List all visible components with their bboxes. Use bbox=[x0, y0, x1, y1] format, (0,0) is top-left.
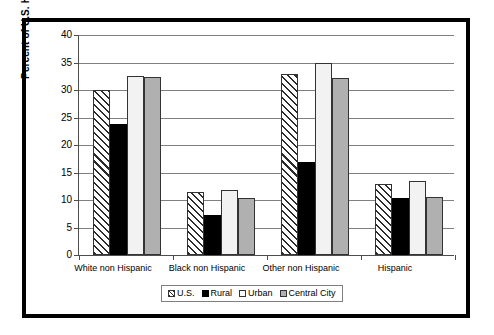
x-axis-label-2: Other non Hispanic bbox=[254, 263, 348, 273]
bar-rural[interactable] bbox=[110, 124, 127, 255]
legend-label: Rural bbox=[211, 288, 233, 298]
y-axis-tick-label: 15 bbox=[61, 172, 72, 173]
bar-group-bars bbox=[361, 35, 469, 255]
bar-group bbox=[79, 35, 173, 255]
x-axis-tick bbox=[173, 255, 174, 260]
legend-swatch-icon bbox=[280, 290, 287, 297]
bar-group bbox=[267, 35, 361, 255]
legend-swatch-icon bbox=[168, 290, 175, 297]
x-axis-label-3: Hispanic bbox=[348, 263, 442, 273]
y-axis-title: Percent of U.S. Households bbox=[20, 0, 34, 82]
bar-group-bars bbox=[79, 35, 187, 255]
y-axis-tick-label: 20 bbox=[61, 144, 72, 145]
y-axis-tick-label: 40 bbox=[61, 34, 72, 35]
y-axis-tick-label: 30 bbox=[61, 89, 72, 90]
y-axis-tick-label: 0 bbox=[66, 254, 72, 255]
y-axis-tick-label: 25 bbox=[61, 117, 72, 118]
bar-group bbox=[361, 35, 455, 255]
bar-rural[interactable] bbox=[298, 162, 315, 255]
chart-legend: U.S.RuralUrbanCentral City bbox=[161, 285, 343, 302]
bar-group bbox=[173, 35, 267, 255]
y-axis-tick-label: 35 bbox=[61, 62, 72, 63]
y-axis-tick-label: 10 bbox=[61, 199, 72, 200]
bar-rural[interactable] bbox=[204, 215, 221, 255]
chart-plot-wrapper: Percent of U.S. Households 4035302520151… bbox=[26, 22, 466, 314]
bar-group-bars bbox=[173, 35, 281, 255]
x-axis-tick bbox=[455, 255, 456, 260]
x-axis-tick bbox=[267, 255, 268, 260]
legend-swatch-icon bbox=[202, 290, 209, 297]
bar-u-s[interactable] bbox=[281, 74, 298, 256]
legend-item-central-city[interactable]: Central City bbox=[280, 288, 336, 298]
plot-area: 4035302520151050 bbox=[78, 35, 454, 255]
bar-u-s[interactable] bbox=[93, 90, 110, 255]
legend-item-rural[interactable]: Rural bbox=[202, 288, 233, 298]
chart-frame: Percent of U.S. Households 4035302520151… bbox=[22, 18, 470, 318]
bar-central-city[interactable] bbox=[144, 77, 161, 255]
bar-u-s[interactable] bbox=[375, 184, 392, 256]
x-axis-label-1: Black non Hispanic bbox=[160, 263, 254, 273]
bar-u-s[interactable] bbox=[187, 192, 204, 255]
legend-swatch-icon bbox=[239, 290, 246, 297]
bar-urban[interactable] bbox=[221, 190, 238, 255]
bar-group-bars bbox=[267, 35, 375, 255]
legend-item-u-s[interactable]: U.S. bbox=[168, 288, 195, 298]
legend-label: U.S. bbox=[177, 288, 195, 298]
legend-label: Central City bbox=[289, 288, 336, 298]
legend-label: Urban bbox=[248, 288, 273, 298]
x-axis-tick bbox=[361, 255, 362, 260]
x-axis-tick bbox=[79, 255, 80, 260]
x-axis-label-0: White non Hispanic bbox=[66, 263, 160, 273]
legend-item-urban[interactable]: Urban bbox=[239, 288, 273, 298]
bar-central-city[interactable] bbox=[238, 198, 255, 255]
bar-rural[interactable] bbox=[392, 198, 409, 255]
bar-central-city[interactable] bbox=[332, 78, 349, 255]
bar-urban[interactable] bbox=[315, 63, 332, 256]
bar-central-city[interactable] bbox=[426, 197, 443, 255]
y-axis-tick-label: 5 bbox=[66, 227, 72, 228]
bar-urban[interactable] bbox=[127, 76, 144, 255]
bar-urban[interactable] bbox=[409, 181, 426, 255]
